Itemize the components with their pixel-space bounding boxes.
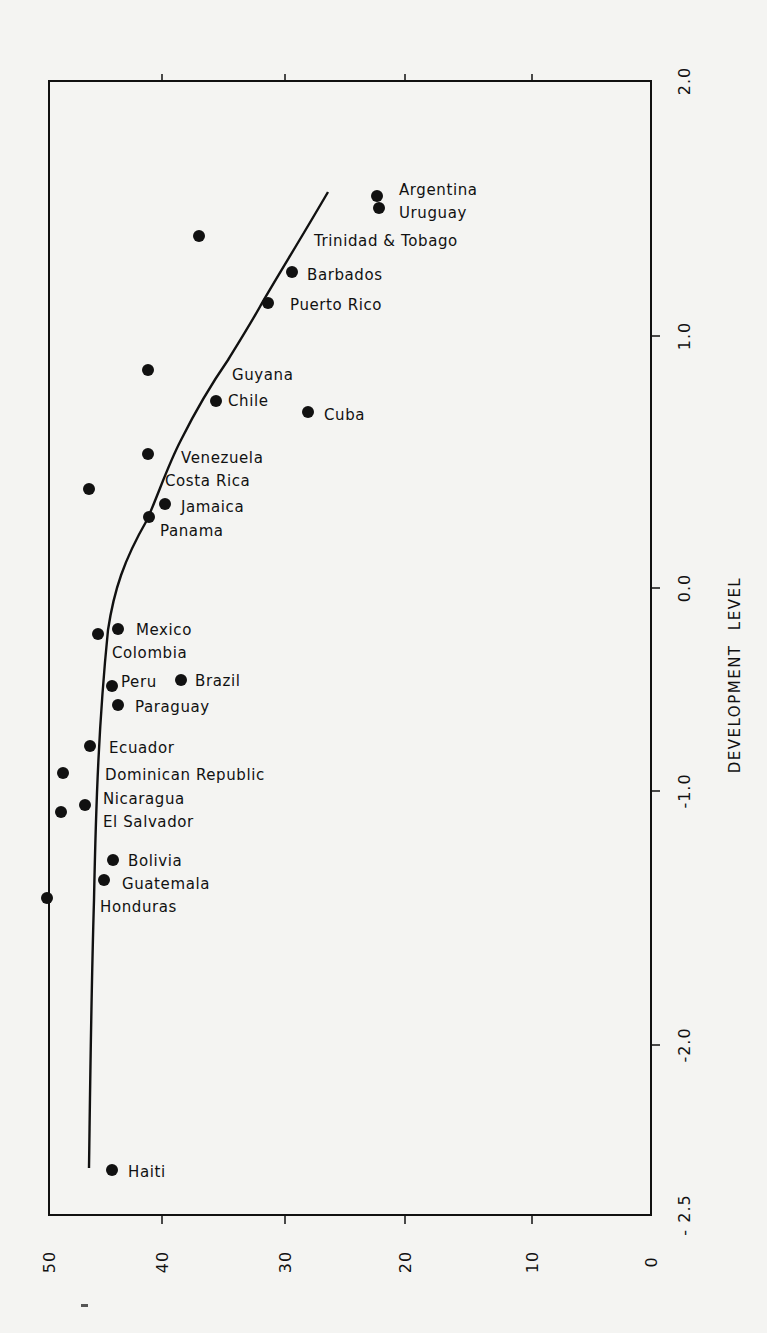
point-panama <box>143 511 155 523</box>
x-tick-labels: 50 40 30 20 10 0 <box>40 1251 661 1273</box>
point-mexico <box>112 623 124 635</box>
label-barbados: Barbados <box>307 266 383 284</box>
print-speck <box>81 1304 88 1307</box>
label-dominican-republic: Dominican Republic <box>105 766 265 784</box>
label-trinidad: Trinidad & Tobago <box>313 232 458 250</box>
x-tick-40: 40 <box>153 1251 172 1273</box>
x-tick-30: 30 <box>276 1251 295 1273</box>
scatter-chart: 50 40 30 20 10 0 2.0 1.0 0.0 -1.0 -2.0 -… <box>0 0 767 1333</box>
y-tick-neg1: -1.0 <box>675 773 694 808</box>
label-costa-rica: Costa Rica <box>165 472 250 490</box>
label-puerto-rico: Puerto Rico <box>290 296 382 314</box>
point-nicaragua <box>79 799 91 811</box>
label-brazil: Brazil <box>195 672 240 690</box>
x-tick-20: 20 <box>396 1251 415 1273</box>
x-tick-50: 50 <box>40 1251 59 1273</box>
label-honduras: Honduras <box>100 898 177 916</box>
label-uruguay: Uruguay <box>399 204 467 222</box>
point-trinidad <box>193 230 205 242</box>
point-cuba <box>302 406 314 418</box>
point-el-salvador <box>55 806 67 818</box>
point-guyana <box>142 364 154 376</box>
label-jamaica: Jamaica <box>180 498 244 516</box>
label-venezuela: Venezuela <box>181 449 263 467</box>
top-ticks <box>162 74 532 81</box>
label-haiti: Haiti <box>128 1163 166 1181</box>
point-costa-rica <box>83 483 95 495</box>
y-tick-0: 0.0 <box>675 574 694 602</box>
label-paraguay: Paraguay <box>135 698 210 716</box>
label-guatemala: Guatemala <box>122 875 210 893</box>
label-bolivia: Bolivia <box>128 852 182 870</box>
point-uruguay <box>373 202 385 214</box>
point-chile <box>210 395 222 407</box>
y-tick-neg2-5: - 2.5 <box>675 1194 694 1235</box>
point-bolivia <box>107 854 119 866</box>
label-guyana: Guyana <box>232 366 294 384</box>
point-colombia <box>92 628 104 640</box>
label-nicaragua: Nicaragua <box>103 790 185 808</box>
point-haiti <box>106 1164 118 1176</box>
point-brazil <box>175 674 187 686</box>
y-axis-title: DEVELOPMENT LEVEL <box>726 577 744 773</box>
y-tick-1: 1.0 <box>675 322 694 350</box>
label-mexico: Mexico <box>136 621 192 639</box>
label-chile: Chile <box>228 392 269 410</box>
x-tick-0: 0 <box>642 1256 661 1267</box>
point-barbados <box>286 266 298 278</box>
bottom-ticks <box>162 1215 532 1224</box>
label-peru: Peru <box>121 673 157 691</box>
y-tick-labels: 2.0 1.0 0.0 -1.0 -2.0 - 2.5 <box>675 67 694 1236</box>
point-peru <box>106 680 118 692</box>
point-jamaica <box>159 498 171 510</box>
label-el-salvador: El Salvador <box>103 813 194 831</box>
label-panama: Panama <box>160 522 224 540</box>
label-argentina: Argentina <box>399 181 478 199</box>
label-ecuador: Ecuador <box>109 739 175 757</box>
label-colombia: Colombia <box>112 644 187 662</box>
point-dominican-republic <box>57 767 69 779</box>
label-cuba: Cuba <box>324 406 365 424</box>
x-tick-10: 10 <box>523 1251 542 1273</box>
point-guatemala <box>98 874 110 886</box>
point-paraguay <box>112 699 124 711</box>
point-argentina <box>371 190 383 202</box>
point-puerto-rico <box>262 297 274 309</box>
y-tick-neg2: -2.0 <box>675 1027 694 1062</box>
point-honduras <box>41 892 53 904</box>
point-venezuela <box>142 448 154 460</box>
y-tick-2: 2.0 <box>675 67 694 95</box>
point-ecuador <box>84 740 96 752</box>
point-labels: Argentina Uruguay Trinidad & Tobago Barb… <box>100 181 478 1181</box>
right-ticks <box>651 336 660 1045</box>
